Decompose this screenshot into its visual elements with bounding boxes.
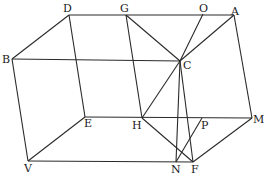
label-V: V xyxy=(23,162,33,175)
label-H: H xyxy=(132,119,142,132)
segment-DE xyxy=(69,15,85,117)
segment-HF xyxy=(142,118,193,162)
segment-GH xyxy=(126,15,142,118)
label-B: B xyxy=(2,53,10,66)
label-N: N xyxy=(171,163,181,176)
segment-BV xyxy=(12,59,28,161)
segment-AM xyxy=(234,15,252,118)
label-P: P xyxy=(201,119,209,132)
label-E: E xyxy=(84,117,92,130)
figure-canvas: D G O A B C E H P M V N F xyxy=(0,0,269,179)
label-A: A xyxy=(230,5,240,18)
segment-CN xyxy=(176,61,180,162)
label-C: C xyxy=(183,59,191,72)
segment-BD xyxy=(12,15,69,59)
label-O: O xyxy=(199,2,208,15)
segment-CH xyxy=(142,61,180,118)
segment-CF xyxy=(180,61,193,162)
segment-CO xyxy=(180,14,203,61)
label-D: D xyxy=(63,2,72,15)
segment-GC xyxy=(126,15,180,61)
segment-NP xyxy=(176,118,202,162)
segment-VF xyxy=(28,161,193,162)
segment-BC xyxy=(12,59,180,61)
edge-lines xyxy=(12,14,252,162)
label-G: G xyxy=(120,2,129,15)
geometric-figure: D G O A B C E H P M V N F xyxy=(0,0,269,179)
vertex-labels: D G O A B C E H P M V N F xyxy=(2,2,264,176)
label-M: M xyxy=(253,113,264,126)
label-F: F xyxy=(191,163,199,176)
segment-CA xyxy=(180,15,234,61)
segment-EM xyxy=(85,117,252,118)
segment-VE xyxy=(28,117,85,161)
